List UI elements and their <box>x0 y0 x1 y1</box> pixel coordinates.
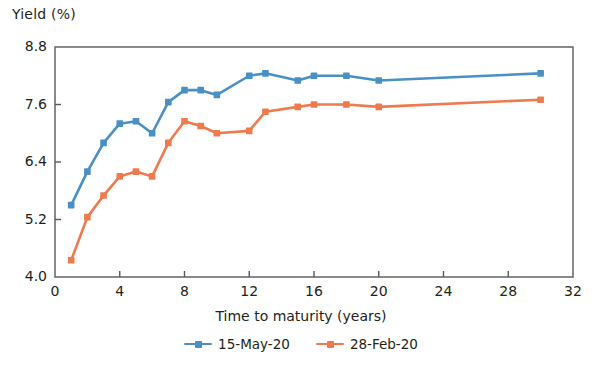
data-point-s1 <box>133 118 140 125</box>
x-tick-label: 24 <box>424 283 464 299</box>
chart-legend: 15-May-20 28-Feb-20 <box>0 336 602 352</box>
data-point-s2 <box>197 123 204 130</box>
data-point-s2 <box>295 104 302 111</box>
data-point-s2 <box>214 130 221 137</box>
data-point-s2 <box>375 104 382 111</box>
data-point-s1 <box>116 120 123 127</box>
x-tick-label: 8 <box>165 283 205 299</box>
data-point-s2 <box>84 214 91 221</box>
x-tick-label: 12 <box>229 283 269 299</box>
series-line-1 <box>71 73 540 205</box>
y-tick-label: 7.6 <box>3 96 47 112</box>
x-tick-label: 28 <box>488 283 528 299</box>
data-point-s1 <box>295 77 302 84</box>
legend-swatch-series-2 <box>316 338 344 350</box>
plot-frame <box>55 47 573 277</box>
legend-label-series-2: 28-Feb-20 <box>350 336 418 352</box>
yield-curve-chart: Yield (%) 4.05.26.47.68.8 04812162024283… <box>0 0 602 366</box>
legend-swatch-series-1 <box>184 338 212 350</box>
x-tick-label: 4 <box>100 283 140 299</box>
data-point-s2 <box>149 173 156 180</box>
data-point-s2 <box>133 168 140 175</box>
data-point-s1 <box>100 140 107 147</box>
y-tick-label: 8.8 <box>3 38 47 54</box>
legend-label-series-1: 15-May-20 <box>218 336 290 352</box>
x-tick-label: 0 <box>35 283 75 299</box>
data-point-s2 <box>116 173 123 180</box>
data-point-s1 <box>246 72 253 79</box>
data-point-s2 <box>68 257 75 264</box>
data-point-s1 <box>181 87 188 94</box>
data-point-s1 <box>537 70 544 77</box>
y-tick-label: 4.0 <box>3 268 47 284</box>
data-point-s1 <box>68 202 75 209</box>
y-tick-label: 5.2 <box>3 211 47 227</box>
legend-item-series-1[interactable]: 15-May-20 <box>184 336 290 352</box>
data-point-s1 <box>165 99 172 106</box>
data-point-s2 <box>165 140 172 147</box>
data-point-s2 <box>100 192 107 199</box>
x-tick-label: 20 <box>359 283 399 299</box>
data-point-s1 <box>375 77 382 84</box>
x-tick-label: 32 <box>553 283 593 299</box>
data-point-s1 <box>262 70 269 77</box>
data-point-s1 <box>197 87 204 94</box>
y-tick-label: 6.4 <box>3 153 47 169</box>
legend-item-series-2[interactable]: 28-Feb-20 <box>316 336 418 352</box>
data-point-s1 <box>343 72 350 79</box>
data-point-s2 <box>537 96 544 103</box>
data-point-s1 <box>84 168 91 175</box>
data-point-s2 <box>343 101 350 108</box>
data-point-s1 <box>311 72 318 79</box>
data-point-s2 <box>181 118 188 125</box>
data-point-s1 <box>149 130 156 137</box>
data-point-s2 <box>246 128 253 135</box>
x-tick-label: 16 <box>294 283 334 299</box>
x-axis-title: Time to maturity (years) <box>0 308 602 324</box>
data-point-s1 <box>214 92 221 99</box>
data-point-s2 <box>311 101 318 108</box>
series-line-2 <box>71 100 540 261</box>
data-point-s2 <box>262 108 269 115</box>
